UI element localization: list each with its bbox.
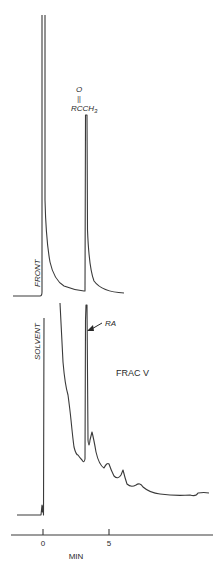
ketone-label-double-bond: || xyxy=(77,95,81,103)
ra-annotation: RA xyxy=(87,319,116,331)
x-tick-label-0: 0 xyxy=(41,539,46,548)
ketone-label-oxygen: O xyxy=(76,85,82,94)
ketone-formula-main: RCCH xyxy=(71,104,94,113)
ketone-formula-subscript: 3 xyxy=(94,108,98,114)
ketone-label-formula: RCCH3 xyxy=(71,104,98,114)
fraction-v-trace xyxy=(60,303,209,496)
top-trace xyxy=(13,15,124,296)
front-label: FRONT xyxy=(33,258,42,287)
x-axis: 0 5 MIN xyxy=(11,529,213,561)
fraction-label: FRAC V xyxy=(116,368,149,378)
ra-label: RA xyxy=(105,319,116,328)
bottom-chromatogram xyxy=(17,303,209,515)
solvent-label: SOLVENT xyxy=(33,322,42,360)
top-chromatogram xyxy=(13,15,124,296)
x-tick-label-5: 5 xyxy=(107,539,112,548)
x-axis-label: MIN xyxy=(69,552,84,561)
ra-arrow-head-icon xyxy=(87,325,94,331)
chromatogram-figure: O || RCCH3 FRONT SOLVENT RA FRAC V 0 5 M… xyxy=(0,0,223,567)
